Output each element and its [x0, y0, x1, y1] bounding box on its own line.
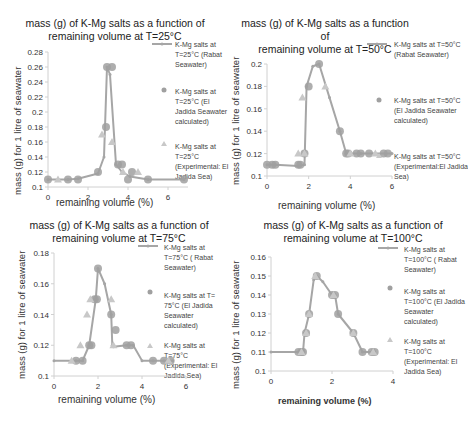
- legend-triangle-icon: [161, 141, 167, 146]
- y-tick-label: 0.26: [27, 63, 43, 72]
- marker-triangle: [321, 82, 329, 89]
- y-tick-label: 0.16: [246, 105, 262, 114]
- marker-circle: [112, 326, 120, 334]
- x-tick-label: 0: [52, 382, 57, 391]
- marker-circle: [79, 357, 87, 365]
- y-tick-label: 0.2: [32, 108, 44, 117]
- x-tick-label: 2: [96, 382, 101, 391]
- y-tick-label: 0.16: [33, 280, 49, 289]
- marker-circle: [271, 161, 279, 169]
- marker-circle: [315, 60, 323, 68]
- y-tick-label: 0.14: [27, 153, 43, 162]
- y-tick-label: 0.1: [255, 367, 267, 376]
- marker-circle: [357, 150, 365, 158]
- y-tick-label: 0.1: [251, 172, 263, 181]
- legend-triangle-icon: [387, 337, 393, 342]
- y-tick-label: 0.16: [250, 253, 266, 262]
- marker-triangle: [76, 341, 84, 348]
- marker-circle: [144, 176, 152, 184]
- marker-circle: [334, 310, 342, 318]
- chart-plot-area: 0.10.120.140.160.180.20.220.240.260.2802…: [0, 0, 468, 422]
- y-tick-label: 0.14: [250, 291, 266, 300]
- y-tick-label: 0.1: [32, 183, 44, 192]
- x-tick-label: 0: [265, 182, 270, 191]
- marker-circle: [336, 127, 344, 135]
- x-tick-label: 2: [306, 182, 311, 191]
- marker-circle: [124, 176, 132, 184]
- series-line-rabat: [271, 276, 375, 352]
- marker-triangle: [109, 341, 117, 348]
- marker-circle: [384, 150, 392, 158]
- y-tick-label: 0.2: [251, 60, 263, 69]
- x-tick-label: 2: [86, 193, 91, 202]
- y-tick-label: 0.28: [27, 48, 43, 57]
- y-tick-label: 0.13: [250, 310, 266, 319]
- y-tick-label: 0.14: [33, 311, 49, 320]
- marker-triangle: [298, 94, 306, 101]
- marker-circle: [296, 161, 304, 169]
- x-tick-label: 4: [140, 382, 145, 391]
- legend-circle-icon: [388, 286, 393, 291]
- y-tick-label: 0.14: [246, 127, 262, 136]
- marker-circle: [107, 311, 115, 319]
- series-line-rabat: [267, 64, 392, 166]
- x-tick-label: 6: [184, 382, 189, 391]
- marker-circle: [87, 341, 95, 349]
- legend-circle-icon: [162, 88, 167, 93]
- x-tick-label: 0: [269, 377, 274, 386]
- marker-circle: [305, 82, 313, 90]
- legend-circle-icon: [377, 98, 382, 103]
- marker-circle: [94, 168, 102, 176]
- marker-circle: [64, 176, 72, 184]
- marker-circle: [94, 264, 102, 272]
- y-tick-label: 0.12: [250, 329, 266, 338]
- x-tick-label: 2: [330, 377, 335, 386]
- marker-circle: [127, 341, 135, 349]
- x-tick-label: 6: [390, 182, 395, 191]
- y-tick-label: 0.24: [27, 78, 43, 87]
- marker-circle: [74, 176, 82, 184]
- marker-circle: [118, 161, 126, 169]
- y-tick-label: 0.11: [251, 348, 267, 357]
- marker-triangle: [83, 311, 91, 318]
- legend-circle-icon: [148, 290, 153, 295]
- y-tick-label: 0.15: [250, 272, 266, 281]
- y-tick-label: 0.12: [33, 341, 49, 350]
- x-tick-label: 4: [126, 193, 131, 202]
- x-tick-label: 4: [391, 377, 396, 386]
- marker-circle: [149, 357, 157, 365]
- legend-triangle-icon: [147, 343, 153, 348]
- x-tick-label: 4: [348, 182, 353, 191]
- marker-circle: [102, 123, 110, 131]
- marker-circle: [180, 176, 188, 184]
- marker-circle: [44, 176, 52, 184]
- y-tick-label: 0.22: [27, 93, 43, 102]
- marker-circle: [108, 63, 116, 71]
- marker-circle: [359, 348, 367, 356]
- y-tick-label: 0.12: [246, 150, 262, 159]
- plot-0: 0.10.120.140.160.180.20.220.240.260.2802…: [27, 43, 188, 203]
- y-tick-label: 0.18: [33, 249, 49, 258]
- x-tick-label: 0: [46, 193, 51, 202]
- y-tick-label: 0.12: [27, 168, 43, 177]
- x-tick-label: 6: [166, 193, 171, 202]
- y-tick-label: 0.16: [27, 138, 43, 147]
- y-tick-label: 0.18: [27, 123, 43, 132]
- y-tick-label: 0.18: [246, 82, 262, 91]
- plot-3: 0.10.110.120.130.140.150.16024: [250, 247, 398, 387]
- plot-2: 0.10.120.140.160.180246: [33, 245, 188, 392]
- plot-1: 0.10.120.140.160.180.20246: [246, 43, 394, 192]
- y-tick-label: 0.1: [38, 372, 50, 381]
